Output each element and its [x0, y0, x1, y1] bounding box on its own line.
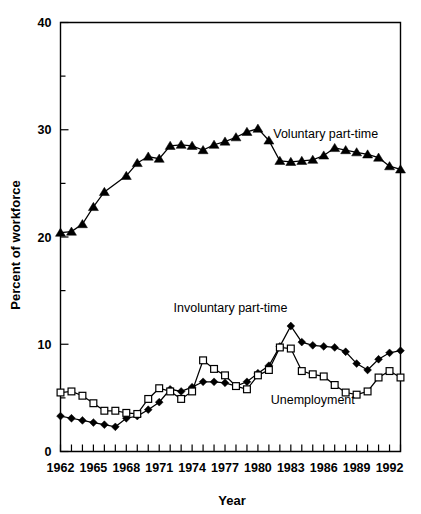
data-point-square [112, 407, 119, 414]
x-ticklabel: 1989 [343, 461, 371, 475]
data-point-square [233, 383, 240, 390]
data-point-square [255, 372, 262, 379]
x-axis-ticklabels: 1962196519681971197419771980198319861989… [47, 461, 404, 475]
data-point-square [167, 388, 174, 395]
data-point-square [331, 382, 338, 389]
y-ticklabel: 10 [38, 338, 52, 352]
data-point-square [178, 396, 185, 403]
y-axis-title: Percent of workforce [8, 180, 23, 309]
data-point-square [309, 371, 316, 378]
x-ticklabel: 1962 [47, 461, 75, 475]
x-ticklabel: 1971 [145, 461, 173, 475]
y-ticklabel: 0 [45, 445, 52, 459]
chart-background [0, 0, 421, 514]
y-ticklabel: 20 [38, 231, 52, 245]
series-label-2: Unemployment [271, 393, 356, 407]
x-ticklabel: 1983 [277, 461, 305, 475]
x-ticklabel: 1968 [112, 461, 140, 475]
x-ticklabel: 1986 [310, 461, 338, 475]
y-ticklabel: 30 [38, 123, 52, 137]
data-point-square [79, 392, 86, 399]
data-point-square [276, 344, 283, 351]
x-axis-title: Year [218, 493, 245, 508]
data-point-square [386, 368, 393, 375]
data-point-square [156, 385, 163, 392]
data-point-square [101, 407, 108, 414]
data-point-square [123, 409, 130, 416]
data-point-square [68, 388, 75, 395]
data-point-square [222, 372, 229, 379]
data-point-square [287, 345, 294, 352]
data-point-square [189, 388, 196, 395]
data-point-square [90, 400, 97, 407]
data-point-square [134, 411, 141, 418]
data-point-square [57, 389, 64, 396]
x-ticklabel: 1992 [376, 461, 404, 475]
data-point-square [397, 374, 404, 381]
data-point-square [145, 396, 152, 403]
data-point-square [265, 367, 272, 374]
series-label-1: Involuntary part-time [174, 301, 288, 315]
data-point-square [244, 386, 251, 393]
x-ticklabel: 1977 [211, 461, 239, 475]
y-ticklabel: 40 [38, 16, 52, 30]
data-point-square [211, 366, 218, 373]
x-ticklabel: 1965 [79, 461, 107, 475]
series-label-0: Voluntary part-time [273, 127, 378, 141]
x-ticklabel: 1980 [244, 461, 272, 475]
chart-canvas: 010203040 196219651968197119741977198019… [0, 0, 421, 514]
chart-figure: 010203040 196219651968197119741977198019… [0, 0, 421, 514]
data-point-square [364, 388, 371, 395]
x-ticklabel: 1974 [178, 461, 206, 475]
data-point-square [375, 374, 382, 381]
data-point-square [298, 368, 305, 375]
data-point-square [320, 373, 327, 380]
data-point-square [200, 357, 207, 364]
